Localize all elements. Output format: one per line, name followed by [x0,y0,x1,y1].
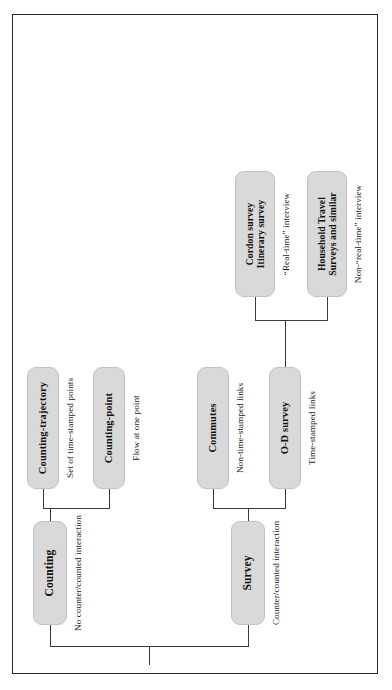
annotation-counting: No counter/counted interaction [73,511,83,635]
connector-root-inlet [149,647,150,665]
connector-root-to-survey [248,625,249,647]
connector-survey-outlet [248,509,249,521]
tree-diagram: Counting No counter/counted interaction … [21,25,371,665]
node-od-survey: O-D survey [269,367,301,489]
connector-od-outlet [285,321,286,367]
node-commutes: Commutes [197,367,229,489]
connector-survey-to-commutes [213,489,214,509]
node-household-travel-line2: Surveys and similar [327,188,338,279]
connector-counting-to-trajectory [43,489,44,509]
connector-survey-to-od [285,489,286,509]
node-household-travel-label: Household Travel Surveys and similar [316,184,339,283]
node-household-travel: Household Travel Surveys and similar [307,171,347,297]
node-counting-trajectory-label: Counting-trajectory [37,378,49,478]
annotation-counting-point: Flow at one point [131,357,141,499]
connector-od-to-cordon [255,297,256,321]
connector-od-spine [255,320,327,321]
node-counting-point: Counting-point [93,367,125,489]
node-counting-label: Counting [43,546,57,601]
node-survey: Survey [231,521,265,625]
figure-frame: Counting No counter/counted interaction … [12,14,378,674]
annotation-commutes: Non-time-stamped links [235,357,245,499]
annotation-od-survey: Time-stamped links [307,357,317,499]
figure-stage-wrapper: Counting No counter/counted interaction … [13,15,379,675]
node-od-survey-label: O-D survey [279,398,291,459]
annotation-household-travel: Non-“real-time” interview [353,161,363,307]
connector-counting-spine [43,508,109,509]
connector-root-to-counting [50,625,51,647]
node-cordon-survey: Cordon survey Itinerary survey [235,171,275,297]
node-counting: Counting [33,521,67,625]
node-counting-trajectory: Counting-trajectory [27,367,59,489]
connector-od-to-household [327,297,328,321]
connector-survey-spine [213,508,285,509]
node-survey-label: Survey [241,551,255,594]
node-household-travel-line1: Household Travel [316,188,327,279]
annotation-survey: Counter/counted interaction [271,511,281,635]
node-cordon-survey-line1: Cordon survey [244,196,255,272]
node-counting-point-label: Counting-point [103,389,115,467]
node-commutes-label: Commutes [207,399,219,456]
annotation-counting-trajectory: Set of time-stamped points [65,357,75,499]
annotation-cordon-survey: “Real-time” interview [281,161,291,307]
connector-counting-to-point [109,489,110,509]
node-cordon-survey-label: Cordon survey Itinerary survey [244,192,267,276]
connector-counting-outlet [50,509,51,521]
figure-page: Counting No counter/counted interaction … [0,0,392,690]
node-cordon-survey-line2: Itinerary survey [255,196,266,272]
